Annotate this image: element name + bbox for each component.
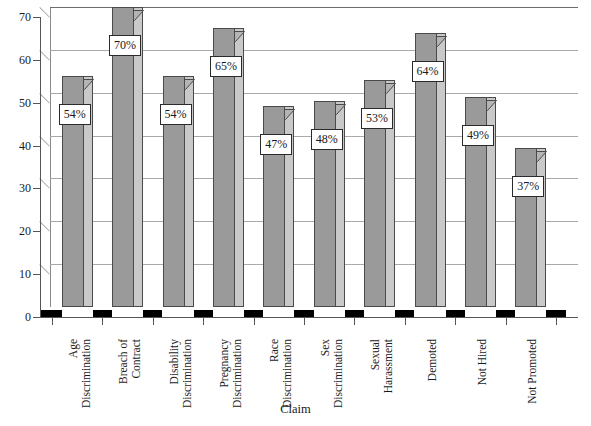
bar-side-face: [537, 148, 546, 307]
data-label: 54%: [160, 104, 192, 125]
bar[interactable]: [515, 148, 546, 317]
y-tick-mark: [33, 274, 40, 275]
x-tick-mark: [556, 317, 557, 325]
x-axis-line: [40, 317, 578, 318]
data-label: 54%: [59, 104, 91, 125]
plot-area: 010203040506070 54%70%54%65%47%48%53%64%…: [40, 17, 568, 317]
y-tick-mark: [33, 231, 40, 232]
x-tick-mark: [102, 317, 103, 325]
x-tick-mark: [506, 317, 507, 325]
y-tick-mark: [33, 146, 40, 147]
data-label: 70%: [109, 35, 141, 56]
y-tick-label: 10: [19, 268, 31, 280]
data-label: 65%: [210, 56, 242, 77]
bar-chart: 010203040506070 54%70%54%65%47%48%53%64%…: [0, 0, 591, 426]
x-tick-mark: [254, 317, 255, 325]
x-tick-mark: [153, 317, 154, 325]
data-label: 53%: [361, 108, 393, 129]
x-tick-mark: [203, 317, 204, 325]
x-tick-mark: [52, 317, 53, 325]
y-tick-label: 20: [19, 225, 31, 237]
y-tick-label: 30: [19, 182, 31, 194]
y-tick-mark: [33, 317, 40, 318]
y-tick-label: 0: [25, 311, 31, 323]
bar-front-face: [515, 148, 537, 307]
y-tick-label: 70: [19, 11, 31, 23]
y-tick-mark: [33, 188, 40, 189]
data-label: 48%: [311, 129, 343, 150]
data-label: 49%: [462, 125, 494, 146]
y-tick-mark: [33, 60, 40, 61]
x-tick-mark: [304, 317, 305, 325]
y-tick-mark: [33, 17, 40, 18]
data-label: 64%: [412, 61, 444, 82]
data-label: 47%: [260, 134, 292, 155]
y-axis-line: [40, 17, 41, 317]
x-tick-mark: [354, 317, 355, 325]
y-tick-label: 40: [19, 140, 31, 152]
x-tick-mark: [455, 317, 456, 325]
x-axis-title: Claim: [0, 402, 591, 417]
data-label: 37%: [512, 176, 544, 197]
x-tick-mark: [405, 317, 406, 325]
y-tick-label: 50: [19, 97, 31, 109]
y-tick-label: 60: [19, 54, 31, 66]
y-tick-mark: [33, 103, 40, 104]
